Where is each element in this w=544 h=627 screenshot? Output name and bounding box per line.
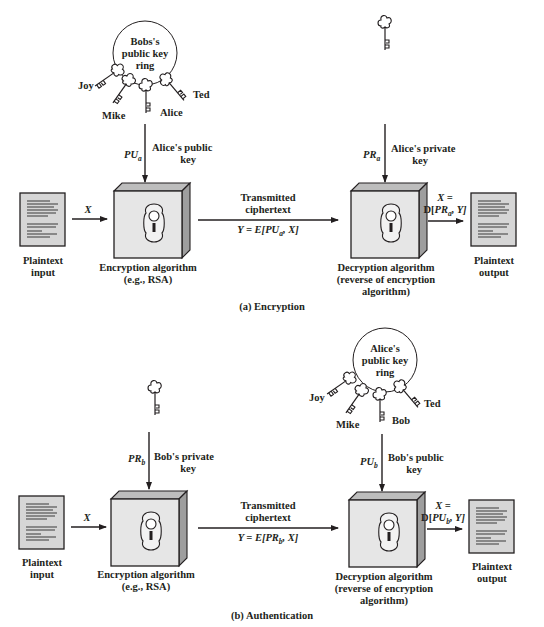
alice-public-key-ring: Alice's public key ring Joy Mike Bob Ted xyxy=(309,328,441,430)
decryption-label-1: Decryption algorithm xyxy=(337,262,434,273)
encryption-label-2: (e.g., RSA) xyxy=(124,274,173,286)
encryption-label-1: Encryption algorithm xyxy=(99,262,197,273)
decryption-lockbox-icon xyxy=(349,492,425,567)
receiver-key-label-2: key xyxy=(406,464,423,475)
plaintext-input-label-1: Plaintext xyxy=(22,557,63,568)
plaintext-output-label-2: output xyxy=(479,267,509,278)
key-label-joy: Joy xyxy=(78,80,95,91)
encryption-label-2: (e.g., RSA) xyxy=(122,581,171,593)
key-icon-joy xyxy=(91,61,127,92)
panel-authentication: PRb Bob's private key Plaintext input X … xyxy=(19,328,514,622)
private-key-icon xyxy=(378,16,391,50)
channel-label-1: Transmitted xyxy=(240,500,295,511)
panel-caption: (b) Authentication xyxy=(231,610,313,622)
sender-key-label-2: key xyxy=(180,154,197,165)
panel-caption: (a) Encryption xyxy=(239,301,305,313)
panel-encryption: Bobs's public key ring Joy Mike Alice Te… xyxy=(20,16,516,313)
ciphertext-formula: Y = E[PRb, X] xyxy=(238,532,299,546)
key-label-mike: Mike xyxy=(336,419,360,430)
sender-key-symbol: PRb xyxy=(128,453,145,467)
key-ring-title-3: ring xyxy=(136,60,155,71)
plaintext-input-label-1: Plaintext xyxy=(23,255,64,266)
key-ring-title-2: public key xyxy=(362,355,409,366)
input-arrow-label: X xyxy=(82,512,91,523)
receiver-key-symbol: PUb xyxy=(360,456,378,470)
ciphertext-formula: Y = E[PUa, X] xyxy=(237,224,299,238)
receiver-key-symbol: PRa xyxy=(363,149,380,163)
key-label-mike: Mike xyxy=(102,110,126,121)
output-formula-line1: X = xyxy=(436,192,453,203)
receiver-key-label-1: Bob's public xyxy=(388,452,444,463)
channel-label-2: ciphertext xyxy=(245,512,291,523)
plaintext-input-document-icon xyxy=(20,193,65,246)
key-icon-alice xyxy=(139,79,152,113)
key-icon-bob xyxy=(373,388,386,422)
key-ring-title-2: public key xyxy=(122,48,169,59)
sender-key-label-2: key xyxy=(180,463,197,474)
sender-key-symbol: PUa xyxy=(124,149,142,163)
receiver-key-label-2: key xyxy=(412,155,429,166)
plaintext-input-document-icon xyxy=(19,496,64,549)
decryption-label-2: (reverse of encryption xyxy=(337,274,436,286)
private-key-icon xyxy=(148,381,161,415)
bob-public-key-ring: Bobs's public key ring Joy Mike Alice Te… xyxy=(78,21,210,121)
plaintext-input-label-2: input xyxy=(30,569,54,580)
encryption-lockbox-icon xyxy=(114,183,190,258)
plaintext-output-document-icon xyxy=(469,500,514,553)
key-ring-title-1: Bobs's xyxy=(130,36,159,47)
output-formula-line2: D[PRa, Y] xyxy=(423,204,467,218)
decryption-label-3: algorithm) xyxy=(360,595,408,607)
key-label-ted: Ted xyxy=(193,89,210,100)
decryption-label-3: algorithm) xyxy=(362,286,410,298)
key-ring-title-1: Alice's xyxy=(370,343,400,354)
key-label-bob: Bob xyxy=(392,415,410,426)
decryption-label-1: Decryption algorithm xyxy=(335,571,432,582)
plaintext-output-document-icon xyxy=(471,193,516,246)
channel-label-1: Transmitted xyxy=(240,192,295,203)
key-ring-title-3: ring xyxy=(376,367,395,378)
output-formula-line2: D[PUb, Y] xyxy=(421,512,465,526)
channel-label-2: ciphertext xyxy=(245,204,291,215)
plaintext-output-label-1: Plaintext xyxy=(472,561,513,572)
key-icon-ted xyxy=(156,70,188,105)
key-label-ted: Ted xyxy=(424,398,441,409)
decryption-label-2: (reverse of encryption xyxy=(335,583,434,595)
key-label-joy: Joy xyxy=(309,392,326,403)
plaintext-output-label-1: Plaintext xyxy=(474,255,515,266)
encryption-lockbox-icon xyxy=(111,491,187,566)
plaintext-input-label-2: input xyxy=(31,267,55,278)
key-icon-mike xyxy=(340,381,371,417)
receiver-key-label-1: Alice's private xyxy=(391,143,456,154)
output-formula-line1: X = xyxy=(434,500,451,511)
key-label-alice: Alice xyxy=(160,107,183,118)
encryption-label-1: Encryption algorithm xyxy=(97,569,195,580)
sender-key-label-1: Bob's private xyxy=(154,451,214,462)
plaintext-output-label-2: output xyxy=(477,573,507,584)
key-icon-joy xyxy=(323,369,359,400)
decryption-lockbox-icon xyxy=(351,183,427,258)
input-arrow-label: X xyxy=(83,204,92,215)
public-key-cryptosystem-diagram: Bobs's public key ring Joy Mike Alice Te… xyxy=(0,0,544,627)
sender-key-label-1: Alice's public xyxy=(152,142,213,153)
